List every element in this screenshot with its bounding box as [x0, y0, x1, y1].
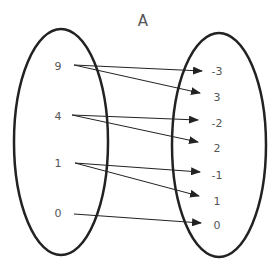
codomain-item: -1 [212, 169, 223, 182]
domain-item: 1 [55, 157, 62, 170]
domain-item: 9 [55, 60, 62, 73]
codomain-item: 0 [214, 219, 221, 232]
codomain-item: 1 [214, 195, 221, 208]
domain-item: 0 [55, 207, 62, 220]
mapping-diagram: A 9 4 1 0 -3 3 -2 2 -1 1 0 [0, 0, 278, 270]
codomain-item: -3 [212, 65, 223, 78]
codomain-item: -2 [212, 117, 223, 130]
arrow-9-to-neg3 [74, 65, 202, 71]
diagram-title: A [138, 12, 149, 30]
mapping-arrows [72, 65, 202, 223]
domain-item: 4 [55, 110, 62, 123]
codomain-item: 2 [214, 142, 221, 155]
codomain-item: 3 [214, 91, 221, 104]
